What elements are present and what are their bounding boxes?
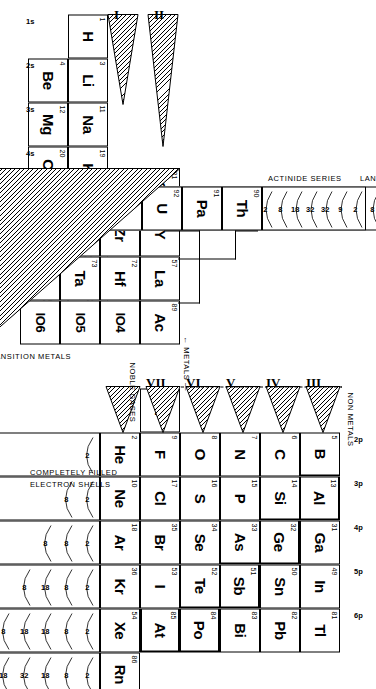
group-roman-7: VII xyxy=(146,374,166,390)
atomic-number: 5 xyxy=(331,435,338,439)
shell-box-rn: 281832188 xyxy=(0,652,100,689)
la-connector-h xyxy=(235,230,236,259)
metal-nonmetal-divider xyxy=(181,386,342,387)
orbital-label-5p: 5p xyxy=(354,567,363,575)
ac-connector-v2 xyxy=(164,230,200,231)
element-symbol: Kr xyxy=(113,565,128,607)
group-roman-i: I xyxy=(114,6,119,22)
element-cell-b[interactable]: 5B xyxy=(300,432,340,476)
element-cell-in[interactable]: 49In xyxy=(300,564,340,608)
atomic-number: 82 xyxy=(291,611,298,619)
atomic-number: 90 xyxy=(253,189,260,197)
transition-metals-label: TRANSITION METALS xyxy=(0,352,71,361)
group-roman-4: IV xyxy=(266,374,280,390)
element-symbol: Al xyxy=(312,477,327,518)
element-symbol: As xyxy=(233,521,248,562)
atomic-number: 17 xyxy=(171,479,178,487)
atomic-number: 34 xyxy=(211,523,218,531)
element-cell-s[interactable]: 16S xyxy=(180,476,220,520)
element-symbol: Po xyxy=(192,609,207,650)
element-cell-ge[interactable]: 32Ge xyxy=(260,520,300,564)
element-cell-li[interactable]: 3Li xyxy=(68,58,108,102)
atomic-number: 4 xyxy=(59,61,66,65)
shell-arc xyxy=(40,524,53,562)
group-pointer-7 xyxy=(146,386,180,432)
element-symbol: Na xyxy=(81,103,96,145)
shell-box-kr: 28188 xyxy=(0,564,100,608)
element-cell-i[interactable]: 53I xyxy=(140,564,180,608)
atomic-number: 91 xyxy=(213,189,220,197)
element-cell-pb[interactable]: 82Pb xyxy=(260,608,300,652)
shell-box-xe: 2818188 xyxy=(0,608,100,652)
actinide-cell-series-label: ACTINIDE SERIES xyxy=(268,174,342,183)
element-cell-br[interactable]: 35Br xyxy=(140,520,180,564)
element-cell-bi[interactable]: 83Bi xyxy=(220,608,260,652)
atomic-number: 81 xyxy=(331,611,338,619)
element-cell-h[interactable]: 1H xyxy=(68,14,108,58)
element-symbol: Sb xyxy=(232,565,247,606)
element-symbol: Br xyxy=(153,521,168,563)
element-cell-na[interactable]: 11Na xyxy=(68,102,108,146)
element-cell-at[interactable]: 85At xyxy=(140,608,180,652)
actinide-cell-pa[interactable]: 91Pa xyxy=(182,186,222,230)
group-pointer-3 xyxy=(306,386,340,432)
element-symbol: Sn xyxy=(273,565,288,607)
atomic-number: 18 xyxy=(131,523,138,531)
atomic-number: 51 xyxy=(250,567,257,575)
transition-metals-pointer xyxy=(0,168,180,344)
element-cell-n[interactable]: 7N xyxy=(220,432,260,476)
element-cell-sn[interactable]: 50Sn xyxy=(260,564,300,608)
orbital-label-3s: 3s xyxy=(26,105,34,113)
element-cell-sb[interactable]: 51Sb xyxy=(220,564,260,608)
atomic-number: 32 xyxy=(290,523,297,531)
atomic-number: 3 xyxy=(99,61,106,65)
element-cell-as[interactable]: 33As xyxy=(220,520,260,564)
atomic-number: 7 xyxy=(251,435,258,439)
group-roman-5: V xyxy=(226,374,235,390)
atomic-number: 10 xyxy=(131,479,138,487)
element-symbol: C xyxy=(273,433,288,475)
element-symbol: Li xyxy=(81,59,96,101)
atomic-number: 52 xyxy=(211,567,218,575)
element-cell-te[interactable]: 52Te xyxy=(180,564,220,608)
element-cell-o[interactable]: 8O xyxy=(180,432,220,476)
ac-connector-v xyxy=(178,302,200,303)
element-symbol: Ga xyxy=(313,521,328,563)
element-cell-se[interactable]: 34Se xyxy=(180,520,220,564)
element-cell-p[interactable]: 15P xyxy=(220,476,260,520)
element-cell-ga[interactable]: 31Ga xyxy=(300,520,340,564)
element-symbol: H xyxy=(81,15,96,57)
orbital-label-2p: 2p xyxy=(354,435,363,443)
group-pointer-5 xyxy=(226,386,260,432)
atomic-number: 53 xyxy=(171,567,178,575)
atomic-number: 49 xyxy=(331,567,338,575)
element-symbol: Se xyxy=(193,521,208,563)
element-cell-f[interactable]: 9F xyxy=(140,432,180,476)
atomic-number: 50 xyxy=(291,567,298,575)
atomic-number: 12 xyxy=(59,105,66,113)
element-symbol: Be xyxy=(41,59,56,101)
element-symbol: At xyxy=(153,609,168,650)
atomic-number: 6 xyxy=(291,435,298,439)
element-symbol: Mg xyxy=(41,103,56,145)
element-symbol: B xyxy=(313,433,328,474)
element-cell-rn[interactable]: 86Rn xyxy=(100,652,140,689)
periodic-table-figure: 1H3Li4Be11Na12Mg19K20Ca37Rb38Sr55Cs56Ba8… xyxy=(0,0,376,689)
group-roman-3: III xyxy=(306,374,321,390)
element-cell-tl[interactable]: 81Tl xyxy=(300,608,340,652)
group-i-pointer xyxy=(108,14,138,104)
atomic-number: 15 xyxy=(251,479,258,487)
element-cell-c[interactable]: 6C xyxy=(260,432,300,476)
element-cell-cl[interactable]: 17Cl xyxy=(140,476,180,520)
element-symbol: F xyxy=(153,433,168,475)
element-cell-al[interactable]: 13Al xyxy=(300,476,340,520)
atomic-number: 9 xyxy=(171,435,178,439)
element-symbol: Te xyxy=(193,565,208,606)
element-cell-si[interactable]: 14Si xyxy=(260,476,300,520)
orbital-label-4s: 4s xyxy=(26,149,34,157)
element-cell-po[interactable]: 84Po xyxy=(180,608,220,652)
non-metals-label: NON METALS xyxy=(345,392,354,446)
orbital-label-3p: 3p xyxy=(354,479,363,487)
ac-connector-h xyxy=(199,230,200,303)
atomic-number: 31 xyxy=(331,523,338,531)
